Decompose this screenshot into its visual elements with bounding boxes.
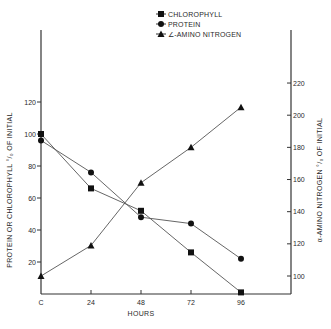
square-marker-icon (138, 208, 144, 214)
series-lines (38, 104, 245, 296)
triangle-marker-icon (138, 179, 145, 186)
y-axis-left-label: PROTEIN OR CHLOROPHYLL °/₀ OF INITIAL (6, 112, 13, 267)
y-left-tick-label: 40 (28, 227, 36, 234)
triangle-marker-icon (38, 273, 45, 280)
y-left-tick-label: 80 (28, 163, 36, 170)
square-marker-icon (238, 289, 244, 295)
circle-marker-icon (188, 221, 194, 227)
axes: C244872962040608010012010012014016018020… (24, 30, 304, 306)
x-tick-label: 96 (237, 299, 245, 306)
y-right-tick-label: 140 (293, 208, 305, 215)
y-right-tick-label: 220 (293, 80, 305, 87)
series-square (38, 131, 244, 295)
legend: CHLOROPHYLLPROTEIN∠-AMINO NITROGEN (156, 11, 241, 38)
y-left-tick-label: 60 (28, 195, 36, 202)
y-right-tick-label: 100 (293, 273, 305, 280)
square-marker-icon (188, 249, 194, 255)
series-triangle (38, 104, 245, 279)
x-tick-label: 48 (137, 299, 145, 306)
series-line (41, 140, 241, 258)
x-axis-label: HOURS (128, 310, 155, 317)
y-right-tick-label: 120 (293, 240, 305, 247)
x-tick-label: 24 (87, 299, 95, 306)
square-marker-icon (158, 11, 164, 17)
legend-label: CHLOROPHYLL (168, 11, 222, 18)
legend-label: PROTEIN (168, 21, 201, 28)
square-marker-icon (88, 185, 94, 191)
y-left-tick-label: 20 (28, 259, 36, 266)
y-right-tick-label: 160 (293, 176, 305, 183)
series-circle (38, 137, 244, 261)
y-left-tick-label: 100 (24, 131, 36, 138)
x-tick-label: C (38, 299, 43, 306)
y-right-tick-label: 180 (293, 144, 305, 151)
circle-marker-icon (238, 256, 244, 262)
circle-marker-icon (88, 169, 94, 175)
x-tick-label: 72 (187, 299, 195, 306)
y-axis-right-label: α-AMINO NITROGEN °/₀ OF INITIAL (316, 118, 323, 242)
series-line (41, 107, 241, 276)
y-right-tick-label: 200 (293, 112, 305, 119)
line-chart: C244872962040608010012010012014016018020… (0, 0, 331, 329)
square-marker-icon (38, 131, 44, 137)
circle-marker-icon (38, 137, 44, 143)
legend-label: ∠-AMINO NITROGEN (168, 31, 241, 38)
circle-marker-icon (158, 21, 164, 27)
y-left-tick-label: 120 (24, 99, 36, 106)
triangle-marker-icon (238, 104, 245, 111)
circle-marker-icon (138, 214, 144, 220)
